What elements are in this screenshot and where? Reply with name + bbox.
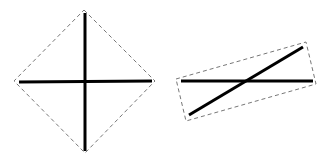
diagram-canvas	[0, 0, 326, 160]
horizontal-line	[19, 81, 152, 82]
diamond-figure	[14, 10, 155, 153]
rectangle-figure	[176, 42, 316, 121]
